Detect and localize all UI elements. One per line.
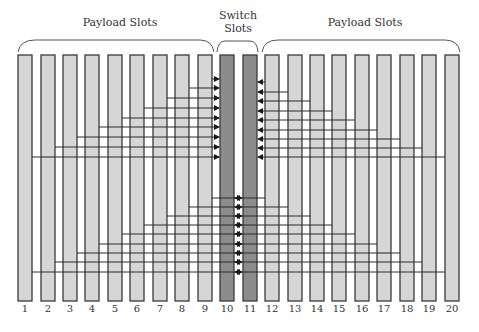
slot-number-8: 8: [170, 303, 194, 314]
slot-number-11: 11: [238, 303, 262, 314]
payload-slot-7: [153, 55, 167, 301]
payload-slot-1: [18, 55, 32, 301]
brace-switch: [217, 41, 258, 52]
payload-slot-15: [332, 55, 346, 301]
slot-number-9: 9: [193, 303, 217, 314]
switch-slots-label: Switch Slots: [210, 9, 266, 35]
payload-slot-13: [288, 55, 302, 301]
payload-slot-14: [310, 55, 324, 301]
slot-number-12: 12: [260, 303, 284, 314]
payload-slot-8: [175, 55, 189, 301]
slot-number-1: 1: [13, 303, 37, 314]
payload-slot-17: [377, 55, 391, 301]
brace-payload-right: [262, 40, 460, 52]
slot-number-10: 10: [215, 303, 239, 314]
slot-number-14: 14: [305, 303, 329, 314]
slot-number-15: 15: [327, 303, 351, 314]
payload-slots-right-label: Payload Slots: [300, 16, 430, 29]
brace-payload-left: [18, 40, 214, 52]
payload-slot-4: [85, 55, 99, 301]
slot-number-3: 3: [58, 303, 82, 314]
backplane-diagram: [0, 0, 479, 332]
slot-number-19: 19: [417, 303, 441, 314]
slot-number-13: 13: [283, 303, 307, 314]
slot-number-4: 4: [80, 303, 104, 314]
payload-slot-2: [41, 55, 55, 301]
payload-slot-6: [130, 55, 144, 301]
switch-slot-10: [220, 55, 234, 301]
slot-number-20: 20: [440, 303, 464, 314]
slot-number-18: 18: [395, 303, 419, 314]
slot-number-5: 5: [103, 303, 127, 314]
payload-slot-9: [198, 55, 212, 301]
slot-number-16: 16: [350, 303, 374, 314]
payload-slot-16: [355, 55, 369, 301]
payload-slot-3: [63, 55, 77, 301]
slot-number-2: 2: [36, 303, 60, 314]
payload-slot-18: [400, 55, 414, 301]
payload-slot-19: [422, 55, 436, 301]
payload-slot-20: [445, 55, 459, 301]
payload-slot-5: [108, 55, 122, 301]
slot-number-6: 6: [125, 303, 149, 314]
slot-number-7: 7: [148, 303, 172, 314]
payload-slots-left-label: Payload Slots: [60, 16, 180, 29]
switch-slot-11: [243, 55, 257, 301]
slot-number-17: 17: [372, 303, 396, 314]
switch-label-line2: Slots: [210, 22, 266, 35]
switch-label-line1: Switch: [210, 9, 266, 22]
